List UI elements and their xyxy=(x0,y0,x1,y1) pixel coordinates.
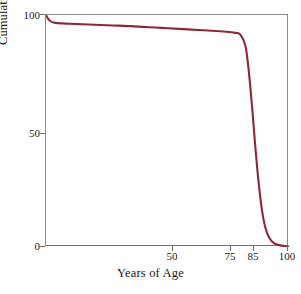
y-tick-label-50: 50 xyxy=(12,127,40,139)
y-axis-title: Cumulative Survival (%) xyxy=(0,0,11,56)
survival-curve-chart: Cumulative Survival (%) 100 50 0 50 75 8… xyxy=(0,0,301,294)
y-tick-label-0: 0 xyxy=(12,240,40,252)
survival-curve-line xyxy=(46,15,289,247)
x-tick-label-100: 100 xyxy=(270,250,301,262)
y-tick-mark-0 xyxy=(40,246,45,247)
x-tick-label-50: 50 xyxy=(155,250,189,262)
plot-area xyxy=(45,14,288,246)
x-tick-label-85: 85 xyxy=(236,250,270,262)
y-tick-label-100: 100 xyxy=(12,9,40,21)
x-axis-title: Years of Age xyxy=(0,266,301,281)
